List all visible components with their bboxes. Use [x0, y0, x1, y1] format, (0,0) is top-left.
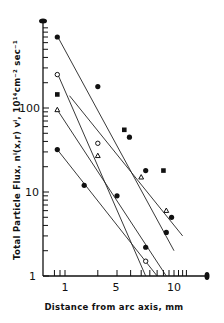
x-label-5: 5	[113, 281, 120, 294]
y-label-1: 1	[29, 270, 36, 283]
y-ticks	[43, 28, 49, 276]
y-label-100: 100	[19, 102, 40, 115]
data-points	[55, 34, 174, 263]
fit-line	[57, 150, 157, 276]
filled-circle-marker	[143, 168, 148, 173]
filled-circle-marker	[55, 34, 60, 39]
x-ticks	[54, 270, 186, 276]
filled-circle-marker	[55, 147, 60, 152]
y-label-10: 10	[25, 186, 39, 199]
triangle-marker	[164, 208, 169, 212]
fit-lines	[57, 36, 182, 276]
open-circle-marker	[55, 72, 59, 76]
filled-circle-marker	[127, 135, 132, 140]
filled-circle-marker	[114, 193, 119, 198]
filled-circle-marker	[164, 230, 169, 235]
fit-line	[57, 110, 166, 276]
filled-circle-marker	[82, 183, 87, 188]
filled-circle-marker	[169, 215, 174, 220]
y-axis-title: Total Particle Flux, nⁱ(x,r) vⁱ, 10¹⁴cm⁻…	[12, 40, 22, 260]
triangle-marker	[139, 175, 144, 179]
x-label-10: 10	[167, 281, 181, 294]
filled-square-marker	[161, 168, 166, 173]
triangle-marker	[55, 107, 60, 111]
filled-circle-marker	[143, 245, 148, 250]
flux-vs-distance-chart: 1 10 100 1 5 10 Distance from arc axis, …	[0, 0, 224, 323]
axes	[43, 22, 207, 276]
open-circle-marker	[96, 141, 100, 145]
filled-square-marker	[55, 92, 60, 97]
y-axis-end-cap	[39, 19, 47, 24]
open-circle-marker	[143, 259, 147, 263]
filled-circle-marker	[95, 84, 100, 89]
x-label-1: 1	[62, 281, 69, 294]
triangle-marker	[95, 153, 100, 157]
fit-line	[57, 36, 174, 251]
x-axis-end-cap	[205, 272, 210, 280]
x-axis-title: Distance from arc axis, mm	[44, 302, 183, 312]
filled-square-marker	[122, 128, 127, 133]
